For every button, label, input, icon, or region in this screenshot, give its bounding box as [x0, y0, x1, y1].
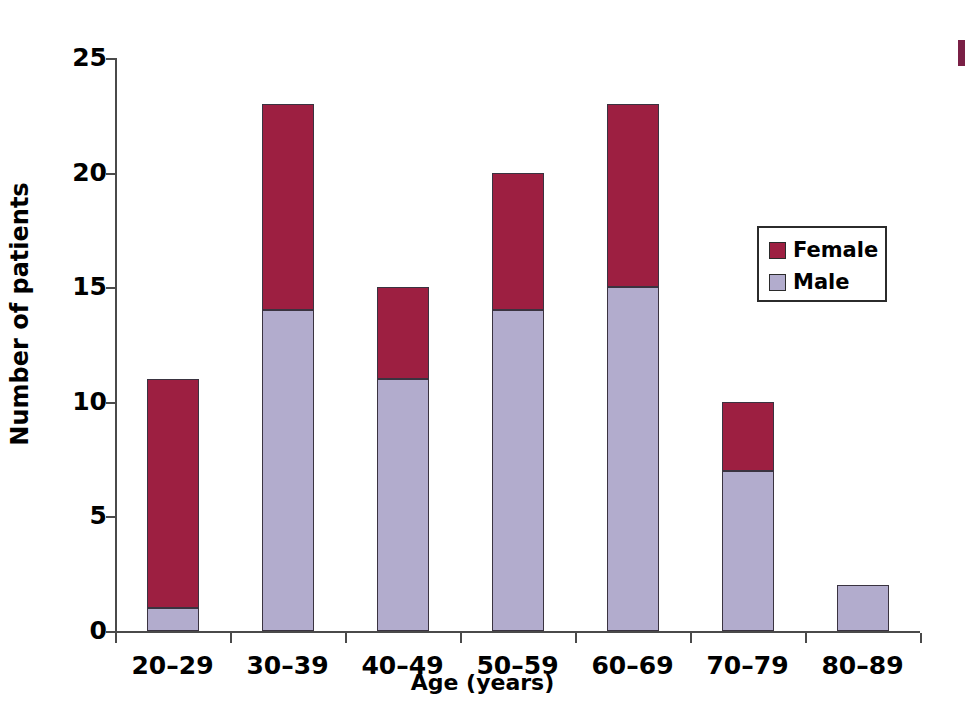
legend-label-male: Male [793, 272, 850, 293]
x-tick-mark [920, 633, 922, 643]
bar-segment-male[interactable] [492, 310, 544, 631]
legend-swatch-male-icon [769, 274, 786, 291]
x-tick-mark [115, 633, 117, 643]
bar-segment-male[interactable] [147, 608, 199, 631]
y-tick-mark [106, 173, 115, 175]
chart-legend: Female Male [757, 226, 887, 302]
bar-group[interactable] [837, 585, 889, 631]
y-tick-label: 15 [72, 275, 107, 299]
bar-segment-female[interactable] [377, 287, 429, 379]
bar-segment-male[interactable] [377, 379, 429, 631]
bar-group[interactable] [722, 402, 774, 631]
bar-segment-male[interactable] [262, 310, 314, 631]
bar-group[interactable] [492, 173, 544, 631]
bar-segment-female[interactable] [147, 379, 199, 608]
bar-segment-female[interactable] [492, 173, 544, 311]
legend-label-female: Female [793, 240, 878, 261]
bar-group[interactable] [377, 287, 429, 631]
y-tick-mark [106, 631, 115, 633]
y-tick-mark [106, 287, 115, 289]
y-tick-label: 25 [72, 46, 107, 70]
x-tick-mark [575, 633, 577, 643]
legend-item-female[interactable]: Female [769, 234, 885, 266]
x-tick-mark [460, 633, 462, 643]
legend-swatch-female-icon [769, 242, 786, 259]
y-tick-mark [106, 402, 115, 404]
y-tick-label: 0 [90, 619, 107, 643]
y-axis-line [115, 58, 117, 633]
y-tick-label: 10 [72, 390, 107, 414]
bar-segment-male[interactable] [607, 287, 659, 631]
plot-area: 0510152025 20–2930–3940–4950–5960–6970–7… [115, 45, 920, 633]
x-axis-title: Age (years) [0, 670, 965, 695]
bar-segment-male[interactable] [722, 471, 774, 631]
bar-segment-female[interactable] [722, 402, 774, 471]
x-tick-mark [345, 633, 347, 643]
x-tick-mark [690, 633, 692, 643]
y-tick-label: 20 [72, 161, 107, 185]
x-tick-mark [230, 633, 232, 643]
x-tick-mark [805, 633, 807, 643]
bar-segment-female[interactable] [262, 104, 314, 310]
y-axis-title: Number of patients [6, 104, 34, 524]
chart-figure: Number of patients 0510152025 20–2930–39… [0, 0, 965, 714]
bar-group[interactable] [147, 379, 199, 631]
y-tick-label: 5 [90, 504, 107, 528]
bar-group[interactable] [607, 104, 659, 631]
x-axis-line [115, 631, 920, 633]
bar-segment-female[interactable] [607, 104, 659, 287]
y-tick-mark [106, 58, 115, 60]
y-tick-mark [106, 516, 115, 518]
page-edge-artifact [958, 40, 965, 66]
legend-item-male[interactable]: Male [769, 266, 885, 298]
bar-segment-male[interactable] [837, 585, 889, 631]
bar-group[interactable] [262, 104, 314, 631]
